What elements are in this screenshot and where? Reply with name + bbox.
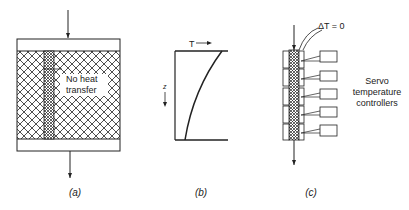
- controller-4: [301, 107, 337, 117]
- figure: No heat transfer (a) T z (b): [0, 0, 409, 210]
- annotation-text-2: transfer: [66, 85, 97, 95]
- column-c: [289, 50, 299, 140]
- controller-label-1: Servo: [365, 76, 389, 86]
- panel-c: ΔT = 0: [283, 21, 401, 198]
- servo-controllers: [301, 51, 337, 136]
- controller-label-2: temperature: [353, 87, 402, 97]
- delta-t-label: ΔT = 0: [318, 21, 345, 31]
- caption-b: (b): [195, 187, 207, 198]
- annotation-text-1: No heat: [66, 74, 98, 84]
- caption-c: (c): [305, 187, 317, 198]
- z-axis-label: z: [162, 83, 167, 90]
- z-arrow-icon: [163, 102, 167, 107]
- controller-2: [301, 71, 337, 81]
- controller-5: [301, 125, 337, 136]
- panel-b: T z (b): [162, 39, 228, 198]
- temperature-profile-curve: [185, 51, 222, 140]
- controller-3: [301, 89, 337, 99]
- panel-a: No heat transfer (a): [17, 10, 120, 198]
- sample-channel: [44, 51, 54, 139]
- controller-label-3: controllers: [356, 98, 398, 108]
- heater-blocks-right: [299, 51, 304, 140]
- t-axis-label: T: [189, 39, 195, 49]
- caption-a: (a): [69, 187, 81, 198]
- t-arrow-icon: [207, 41, 212, 45]
- controller-1: [301, 51, 337, 62]
- heater-blocks-left: [283, 51, 289, 140]
